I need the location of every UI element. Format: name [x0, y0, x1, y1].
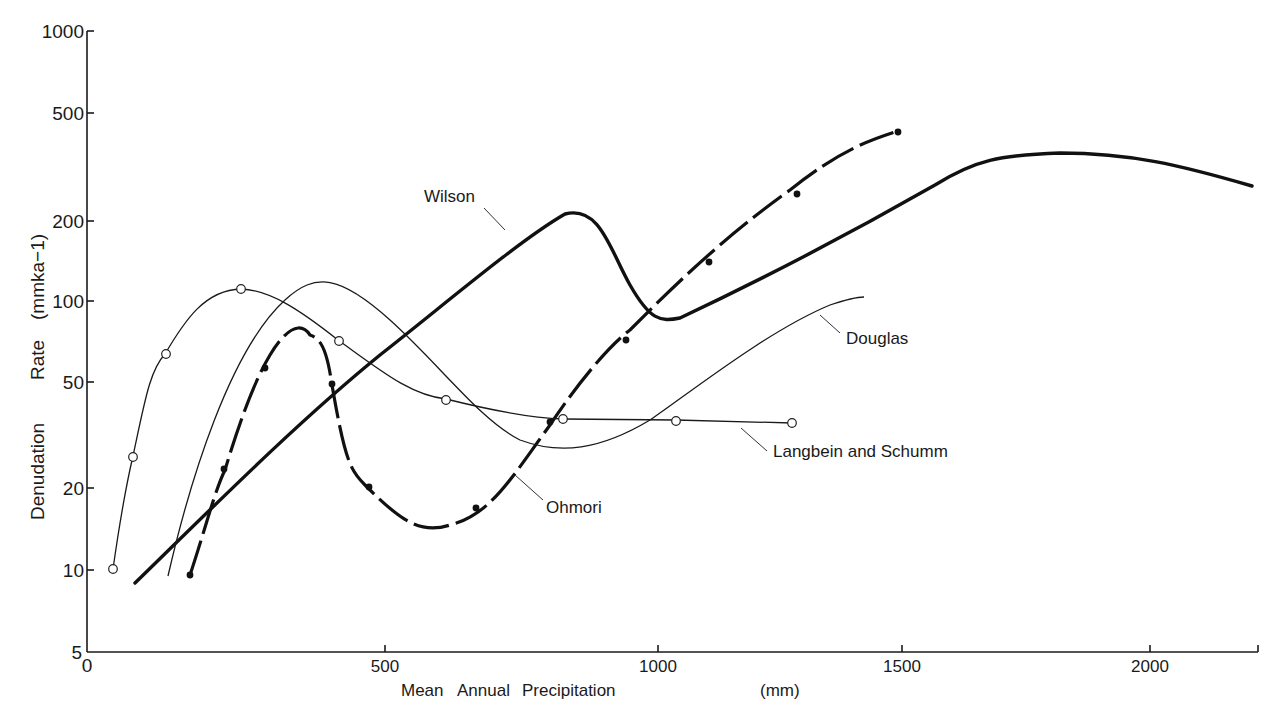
- y-tick-200: 200: [52, 211, 84, 232]
- wilson-text: Wilson: [424, 187, 475, 206]
- x-title-word: Mean: [401, 681, 444, 700]
- y-tick-100: 100: [52, 291, 84, 312]
- y-tick-10: 10: [63, 560, 84, 581]
- label-langbein-schumm: Langbein and Schumm: [741, 428, 948, 461]
- x-title-word: Annual: [457, 681, 510, 700]
- y-tick-500: 500: [52, 103, 84, 124]
- y-tick-1000: 1000: [42, 21, 84, 42]
- x-tick-1500: 1500: [883, 657, 921, 676]
- label-ohmori: Ohmori: [515, 475, 602, 517]
- x-tick-2000: 2000: [1131, 657, 1169, 676]
- series-wilson: [135, 153, 1252, 583]
- label-wilson: Wilson: [424, 187, 505, 230]
- ohmori-text: Ohmori: [546, 498, 602, 517]
- x-tick-1000: 1000: [639, 657, 677, 676]
- x-tick-labels: 0 500 1000 1500 2000: [82, 655, 1169, 676]
- x-axis-title: Mean Annual Precipitation (mm): [401, 681, 800, 700]
- series-langbein-schumm: [113, 289, 792, 569]
- x-tick-0: 0: [82, 655, 93, 676]
- axes: [87, 31, 1258, 652]
- ohmori-markers: [187, 129, 902, 579]
- x-tick-500: 500: [371, 657, 399, 676]
- label-douglas: Douglas: [820, 315, 908, 348]
- y-title-word: Denudation: [27, 423, 48, 520]
- series-ohmori: [190, 131, 898, 575]
- y-tick-20: 20: [63, 478, 84, 499]
- langbein-text: Langbein and Schumm: [773, 442, 948, 461]
- langbein-markers: [109, 285, 797, 574]
- x-title-word: Precipitation: [522, 681, 616, 700]
- denudation-chart: 1000 500 200 100 50 20 10 5 0 500 1000 1…: [0, 0, 1281, 721]
- y-tick-labels: 1000 500 200 100 50 20 10 5: [42, 21, 84, 663]
- y-tick-5: 5: [71, 642, 82, 663]
- series-douglas: [168, 282, 864, 576]
- douglas-text: Douglas: [846, 329, 908, 348]
- y-title-word: Rate: [27, 340, 48, 380]
- y-axis-title: Denudation Rate (mmka−1): [27, 234, 48, 520]
- y-tick-50: 50: [63, 372, 84, 393]
- y-title-unit: (mmka−1): [27, 234, 48, 320]
- x-title-unit: (mm): [760, 681, 800, 700]
